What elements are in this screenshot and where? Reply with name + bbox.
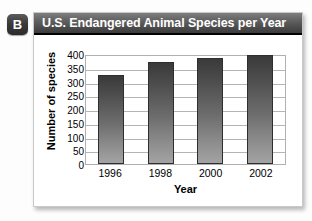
x-axis-tick-labels: 1996199820002002: [85, 167, 286, 179]
chart-panel: U.S. Endangered Animal Species per Year …: [33, 12, 303, 207]
x-tick-label: 2000: [194, 167, 228, 179]
y-tick-label: 200: [56, 105, 84, 116]
y-tick-label: 400: [56, 50, 84, 61]
y-tick-label: 50: [56, 146, 84, 157]
x-tick-label: 1996: [93, 167, 127, 179]
bar-series: [86, 56, 285, 164]
bar: [247, 55, 273, 164]
figure-label-badge: B: [7, 14, 28, 35]
y-tick-label: 350: [56, 63, 84, 74]
y-tick-label: 300: [56, 77, 84, 88]
y-tick-label: 0: [56, 160, 84, 171]
figure-panel-b: B U.S. Endangered Animal Species per Yea…: [0, 0, 312, 221]
chart-title: U.S. Endangered Animal Species per Year: [42, 13, 286, 33]
bar: [148, 62, 174, 164]
x-tick-label: 1998: [143, 167, 177, 179]
bar: [197, 58, 223, 164]
y-axis-tick-labels: 400350300250200150100500: [56, 55, 84, 165]
x-axis-title: Year: [85, 183, 286, 195]
y-tick-label: 150: [56, 118, 84, 129]
chart-title-bar: U.S. Endangered Animal Species per Year: [34, 13, 302, 35]
y-tick-label: 250: [56, 91, 84, 102]
x-tick-label: 2002: [244, 167, 278, 179]
plot-area: [85, 55, 286, 165]
chart-body: Number of species 4003503002502001501005…: [34, 37, 302, 206]
y-tick-label: 100: [56, 132, 84, 143]
bar: [98, 75, 124, 164]
